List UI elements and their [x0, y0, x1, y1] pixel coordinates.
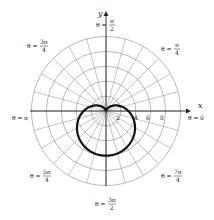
- angle-label-3pi-over-2: θ = 3π 2: [95, 196, 116, 211]
- svg-text:π: π: [175, 41, 179, 48]
- axes: [30, 11, 191, 186]
- svg-text:π: π: [110, 17, 114, 24]
- angle-label-0: θ = 0: [188, 114, 204, 121]
- angle-label-pi-over-2: θ = π 2: [96, 17, 115, 32]
- tick-2: 2: [116, 114, 120, 121]
- grid-radial: [106, 58, 159, 111]
- grid-radial: [69, 111, 106, 176]
- grid-radial: [87, 111, 106, 183]
- svg-text:4: 4: [175, 49, 179, 56]
- polar-chart: y x 2 4 6 8 θ = π 2 θ = π 4 θ = 3π 4 θ =…: [0, 0, 214, 220]
- svg-text:θ =: θ =: [96, 21, 107, 28]
- svg-text:θ =: θ =: [95, 200, 106, 207]
- angle-label-3pi-over-4: θ = 3π 4: [27, 38, 48, 53]
- svg-text:4: 4: [45, 176, 49, 183]
- svg-text:θ =: θ =: [188, 114, 199, 121]
- grid-radial: [41, 111, 106, 148]
- svg-text:4: 4: [176, 176, 180, 183]
- grid-radial: [106, 46, 143, 111]
- svg-text:θ =: θ =: [27, 42, 38, 49]
- tick-8: 8: [160, 114, 164, 121]
- tick-4: 4: [134, 114, 138, 121]
- svg-text:2: 2: [110, 25, 114, 32]
- grid-radial: [69, 46, 106, 111]
- grid-radial: [106, 39, 125, 111]
- x-axis-arrow-icon: [186, 109, 191, 114]
- grid-radial: [53, 58, 106, 111]
- grid-radial: [87, 39, 106, 111]
- grid-radial: [34, 111, 106, 130]
- angle-label-7pi-over-4: θ = 7π 4: [161, 168, 182, 183]
- y-axis-label: y: [97, 9, 103, 18]
- angle-label-pi: θ = π: [12, 114, 28, 121]
- svg-text:3π: 3π: [108, 196, 116, 203]
- angle-label-pi-over-4: θ = π 4: [161, 41, 180, 56]
- angle-label-5pi-over-4: θ = 5π 4: [30, 168, 51, 183]
- y-axis-arrow-icon: [104, 11, 109, 16]
- svg-text:θ =: θ =: [161, 172, 172, 179]
- grid-radial: [106, 111, 125, 183]
- x-axis-label: x: [198, 101, 203, 110]
- grid-radial: [34, 92, 106, 111]
- svg-text:7π: 7π: [174, 168, 182, 175]
- svg-text:θ =: θ =: [161, 45, 172, 52]
- svg-text:2: 2: [110, 204, 114, 211]
- grid-radial: [106, 92, 178, 111]
- svg-text:5π: 5π: [43, 168, 51, 175]
- svg-text:0: 0: [200, 114, 204, 121]
- svg-text:θ =: θ =: [30, 172, 41, 179]
- svg-text:4: 4: [42, 46, 46, 53]
- svg-text:π: π: [24, 114, 28, 121]
- svg-text:θ =: θ =: [12, 114, 23, 121]
- svg-text:3π: 3π: [40, 38, 48, 45]
- tick-6: 6: [146, 114, 150, 121]
